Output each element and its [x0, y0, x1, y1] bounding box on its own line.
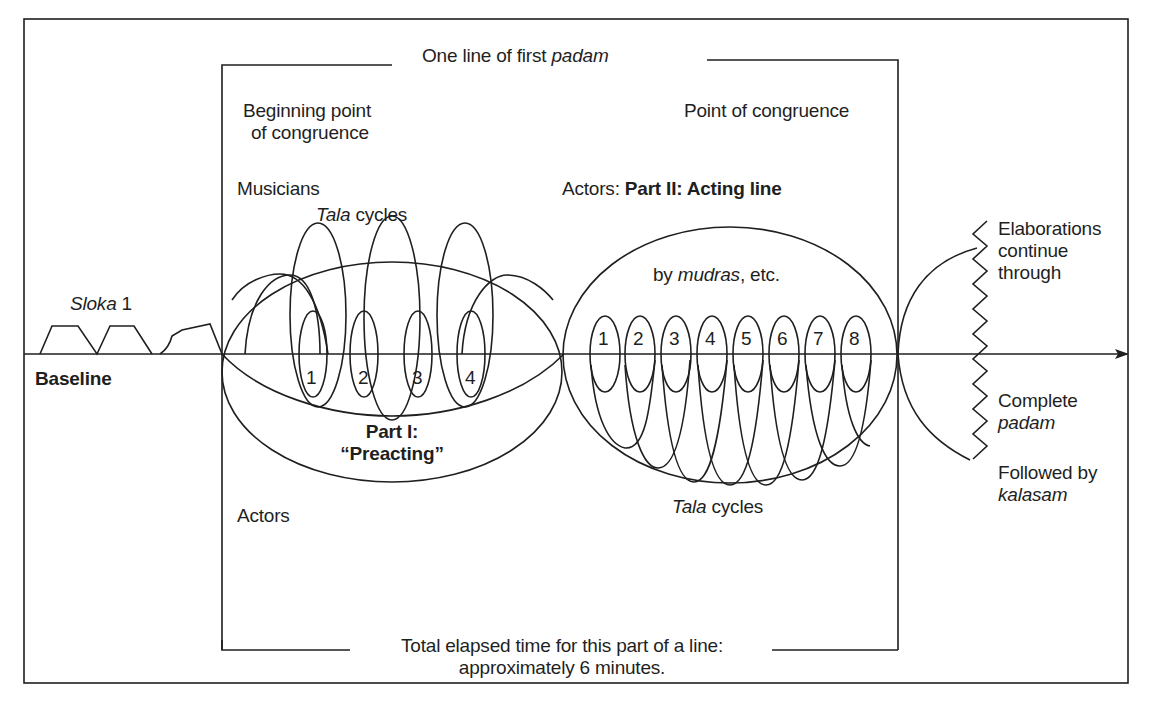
mudras-label: by mudras, etc. — [653, 264, 780, 286]
elaborations-line3: through — [998, 262, 1101, 284]
by-text: by — [653, 264, 678, 285]
followed-by-text: Followed by — [998, 462, 1097, 484]
part1-cycle-label-4: 4 — [465, 367, 475, 389]
bracket-top-right — [707, 60, 898, 650]
musicians-label: Musicians — [237, 178, 320, 200]
tala-cycles-bottom-label: Tala cycles — [672, 496, 763, 518]
acting-line-bold: Part II: Acting line — [625, 178, 782, 199]
kalasam-italic: kalasam — [998, 484, 1097, 506]
sloka-italic: Sloka — [70, 293, 117, 314]
acting-line-label: Actors: Part II: Acting line — [562, 178, 782, 200]
part1-cycle-label-3: 3 — [412, 367, 422, 389]
part2-cycle-label-7: 7 — [813, 328, 823, 350]
tala-italic-bottom: Tala — [672, 496, 706, 517]
etc-text: , etc. — [740, 264, 780, 285]
part2-cycle-label-3: 3 — [669, 328, 679, 350]
cycles-text: cycles — [350, 204, 407, 225]
mudras-italic: mudras — [678, 264, 740, 285]
header-italic: padam — [551, 45, 608, 66]
part1-label: Part I: “Preacting” — [322, 421, 462, 465]
complete-text: Complete — [998, 390, 1078, 412]
total-line1: Total elapsed time for this part of a li… — [352, 635, 772, 657]
bracket-bottom-left — [222, 640, 350, 650]
point-of-congruence-label: Point of congruence — [684, 100, 849, 122]
beginning-point-line1: Beginning point — [243, 100, 371, 122]
tail-arc-upper — [898, 248, 977, 354]
part1-inner-arc — [222, 354, 564, 416]
part1-cycle-label-2: 2 — [358, 367, 368, 389]
baseline-label: Baseline — [35, 368, 112, 390]
actors-prefix: Actors: — [562, 178, 625, 199]
beginning-point-label: Beginning point of congruence — [243, 100, 371, 144]
sloka-label: Sloka 1 — [70, 293, 132, 315]
header-text: One line of first — [422, 45, 551, 66]
actors-label: Actors — [237, 505, 290, 527]
padam-italic: padam — [998, 412, 1078, 434]
part2-cycle-label-5: 5 — [741, 328, 751, 350]
part1-tala-loop-outer-5 — [462, 275, 553, 354]
part1-tala-loop-2 — [290, 223, 346, 407]
outer-frame — [24, 19, 1128, 683]
part1-line1: Part I: — [322, 421, 462, 443]
diagram-canvas — [0, 0, 1152, 708]
complete-padam-label: Complete padam — [998, 390, 1078, 434]
part2-cycle-label-4: 4 — [705, 328, 715, 350]
sloka-number: 1 — [117, 293, 132, 314]
part2-cycle-label-8: 8 — [849, 328, 859, 350]
header-label: One line of first padam — [422, 45, 609, 67]
total-line2: approximately 6 minutes. — [352, 657, 772, 679]
total-elapsed-label: Total elapsed time for this part of a li… — [352, 635, 772, 679]
part1-tala-loop-outer-1 — [245, 275, 320, 354]
zigzag-line — [973, 221, 987, 459]
beginning-point-line2: of congruence — [243, 122, 371, 144]
elaborations-line1: Elaborations — [998, 218, 1101, 240]
part2-cycle-label-6: 6 — [777, 328, 787, 350]
followed-by-label: Followed by kalasam — [998, 462, 1097, 506]
elaborations-label: Elaborations continue through — [998, 218, 1101, 284]
part2-cycle-label-1: 1 — [598, 328, 608, 350]
cycles-text-bottom: cycles — [706, 496, 763, 517]
part1-cycle-label-1: 1 — [306, 367, 316, 389]
elaborations-line2: continue — [998, 240, 1101, 262]
sloka-shapes — [40, 324, 222, 354]
tala-cycles-top-label: Tala cycles — [316, 204, 407, 226]
part1-line2: “Preacting” — [322, 443, 462, 465]
part2-cycle-label-2: 2 — [633, 328, 643, 350]
tala-italic: Tala — [316, 204, 350, 225]
tail-arc-lower — [898, 354, 970, 460]
